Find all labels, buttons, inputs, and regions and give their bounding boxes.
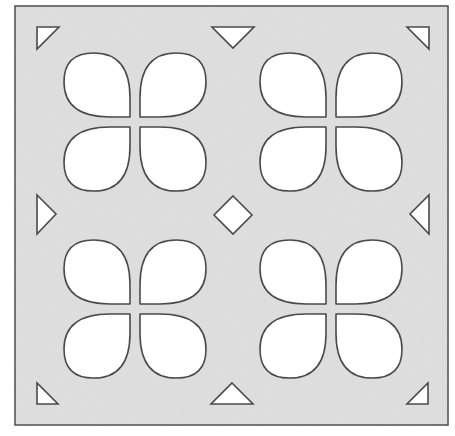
- petal-bottom-right-group-bottom-right: [336, 314, 402, 378]
- petal-bottom-left-group-top-right: [140, 240, 206, 304]
- petal-top-left-group-top-right: [140, 53, 206, 117]
- petal-bottom-left-group-bottom-right: [140, 314, 206, 378]
- petal-top-left-group-bottom-left: [64, 127, 130, 191]
- petal-top-right-group-top-left: [260, 53, 326, 117]
- petal-bottom-right-group-bottom-left: [260, 314, 326, 378]
- stencil-diagram: [0, 0, 455, 436]
- petal-top-right-group-bottom-left: [260, 127, 326, 191]
- petal-top-left-group-top-left: [64, 53, 130, 117]
- petal-bottom-left-group-bottom-left: [64, 314, 130, 378]
- petal-bottom-right-group-top-right: [336, 240, 402, 304]
- petal-bottom-left-group-top-left: [64, 240, 130, 304]
- petal-top-right-group-top-right: [336, 53, 402, 117]
- petal-top-right-group-bottom-right: [336, 127, 402, 191]
- petal-bottom-right-group-top-left: [260, 240, 326, 304]
- petal-top-left-group-bottom-right: [140, 127, 206, 191]
